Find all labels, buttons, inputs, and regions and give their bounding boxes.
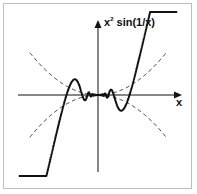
y-axis-arrow-icon	[95, 20, 102, 28]
function-label: x2 sin(1/x)	[104, 16, 155, 28]
plot: x2 sin(1/x) x	[0, 0, 197, 194]
x-axis-label: x	[176, 96, 183, 108]
